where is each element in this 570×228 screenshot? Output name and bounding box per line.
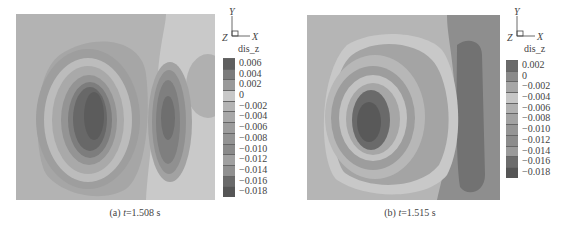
legend-swatch [506,81,518,92]
legend-label: −0.008 [239,132,267,143]
legend-label: −0.012 [239,153,267,164]
legend-swatch [506,124,518,135]
legend-label: −0.016 [239,175,267,186]
axis-y-label: Y [229,6,235,17]
legend-swatch [223,122,235,133]
legend-swatch [506,167,518,178]
legend-label: −0.008 [522,112,550,123]
legend-label: −0.004 [239,110,267,121]
legend-label: −0.004 [522,91,550,102]
legend-swatch [506,92,518,103]
legend-swatch [223,79,235,90]
legend-label: −0.010 [239,143,267,154]
legend-label: −0.014 [239,164,267,175]
legend-swatch [223,154,235,165]
caption-b: (b) t=1.515 s [355,207,465,218]
axis-z-label: Z [507,32,513,43]
axis-x-label: X [537,31,543,42]
legend-swatch [223,90,235,101]
legend-label: −0.006 [522,102,550,113]
caption-a: (a) t=1.508 s [80,207,190,218]
legend-swatch [506,71,518,82]
legend-label: 0 [522,70,527,81]
axis-x-label: X [252,31,258,42]
legend-swatch [506,103,518,114]
legend-label: 0.006 [239,57,262,68]
legend-label: 0 [239,89,244,100]
legend-label: −0.012 [522,134,550,145]
legend-label: −0.006 [239,121,267,132]
legend-label: −0.016 [522,155,550,166]
legend-label: −0.002 [239,100,267,111]
contour-plot-a [16,14,215,200]
legend-label: −0.010 [522,123,550,134]
legend-swatch [506,156,518,167]
contour-plot-b [307,15,500,200]
legend-label: 0.002 [239,78,262,89]
legend-swatch [223,186,235,197]
caption-a-prefix: (a) [110,207,121,218]
legend-swatch [223,176,235,187]
caption-b-prefix: (b) [384,207,396,218]
legend-label: 0.002 [522,59,545,70]
legend-swatch [223,111,235,122]
legend-label: −0.002 [522,80,550,91]
contour-svg-b [307,15,500,200]
legend-swatch [223,101,235,112]
legend-label: −0.018 [239,185,267,196]
legend-label: −0.014 [522,145,550,156]
legend-swatch [506,135,518,146]
legend-swatch [223,133,235,144]
legend-swatch [506,60,518,71]
axis-y-label: Y [514,6,520,17]
legend-swatch [223,69,235,80]
contour-svg-a [16,14,215,200]
legend-swatch [223,165,235,176]
legend-swatch [506,113,518,124]
legend-label: 0.004 [239,68,262,79]
caption-b-value: =1.515 s [401,207,436,218]
caption-a-value: =1.508 s [126,207,161,218]
axis-z-label: Z [222,32,228,43]
legend-title-a: dis_z [238,43,259,54]
legend-title-b: dis_z [524,43,545,54]
legend-label: −0.018 [522,166,550,177]
legend-swatch [506,146,518,157]
legend-swatch [223,58,235,69]
axes-triad-a: Y Z X [220,8,270,48]
legend-swatch [223,144,235,155]
axes-triad-b: Y Z X [505,8,555,48]
